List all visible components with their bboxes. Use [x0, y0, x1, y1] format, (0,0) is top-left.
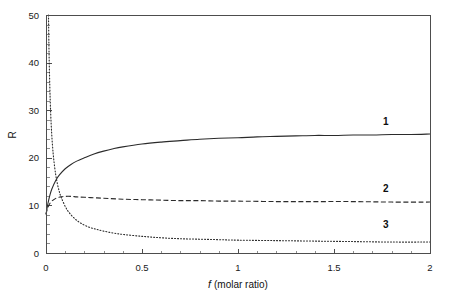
x-tick-label: 1.5 [327, 262, 340, 273]
y-tick-label: 50 [28, 10, 39, 21]
x-axis-title-rest: (molar ratio) [214, 279, 268, 290]
y-tick-label: 0 [34, 248, 39, 259]
x-tick-label: 1 [235, 262, 240, 273]
x-axis-title-italic-symbol: f [208, 278, 212, 290]
curve-annotation-1: 1 [383, 116, 389, 127]
chart-figure: 00.511.5201020304050123 R f(molar ratio) [0, 0, 454, 296]
series-curve-2 [46, 196, 430, 214]
labels-group: 00.511.5201020304050123 [28, 10, 432, 274]
y-axis-title: R [7, 131, 18, 138]
x-tick-label: 0.5 [135, 262, 148, 273]
y-tick-label: 20 [28, 152, 39, 163]
y-tick-label: 30 [28, 105, 39, 116]
chart-canvas: 00.511.5201020304050123 R f(molar ratio) [0, 0, 454, 296]
series-curve-3 [49, 15, 431, 242]
curve-annotation-3: 3 [383, 219, 389, 230]
series-group [46, 15, 430, 242]
x-tick-label: 0 [43, 262, 48, 273]
x-tick-label: 2 [427, 262, 432, 273]
y-tick-label: 10 [28, 200, 39, 211]
curve-annotation-2: 2 [383, 183, 389, 194]
x-axis-title: f(molar ratio) [208, 278, 268, 290]
y-tick-label: 40 [28, 57, 39, 68]
series-curve-1 [46, 134, 430, 214]
